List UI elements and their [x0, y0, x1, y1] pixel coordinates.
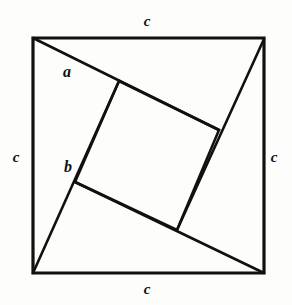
inner-square: [75, 81, 219, 230]
inner-square-outline: [75, 81, 219, 230]
geometry-canvas: [0, 0, 292, 305]
label-side-bottom-c: c: [144, 282, 151, 297]
label-side-left-c: c: [13, 150, 20, 165]
label-leg-a: a: [63, 64, 71, 80]
label-side-top-c: c: [144, 14, 151, 29]
label-leg-b: b: [64, 159, 72, 175]
label-side-right-c: c: [271, 150, 278, 165]
pythagorean-theorem-figure: a b c c c c: [0, 0, 292, 305]
